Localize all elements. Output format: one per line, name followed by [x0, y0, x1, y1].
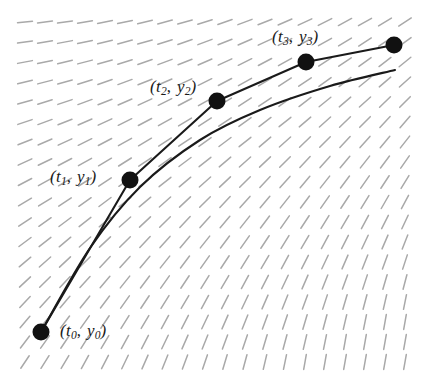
slope-field-tick [298, 19, 312, 25]
slope-field-tick [140, 256, 150, 267]
slope-field-tick [404, 355, 407, 370]
slope-field-tick [302, 255, 309, 268]
slope-field-tick [404, 315, 407, 330]
slope-field-tick [401, 195, 408, 208]
slope-field-tick [361, 196, 369, 209]
slope-field-tick [98, 80, 112, 85]
slope-field-tick [281, 236, 289, 249]
slope-field-tick [158, 59, 172, 64]
data-point-marker [298, 54, 315, 71]
slope-field-tick [138, 20, 153, 23]
slope-field-tick [40, 296, 50, 307]
slope-field-tick [158, 20, 173, 24]
slope-field-tick [258, 58, 271, 65]
slope-field-tick [38, 21, 53, 23]
slope-field-tick [78, 119, 92, 125]
slope-field-tick [220, 236, 229, 248]
slope-field-tick [401, 176, 409, 189]
slope-field-tick [202, 315, 208, 329]
slope-field-tick [162, 335, 168, 349]
slope-field-tick [160, 236, 170, 247]
slope-field-tick [279, 137, 290, 147]
slope-field-tick [58, 21, 73, 23]
slope-field-tick [121, 296, 130, 308]
slope-field-tick [219, 157, 230, 167]
slope-field-tick [379, 57, 391, 66]
slope-field-tick [301, 196, 310, 208]
slope-field-tick [382, 255, 387, 269]
slope-field-tick [138, 40, 152, 44]
slope-field-tick [20, 336, 29, 348]
slope-field-tick [259, 117, 271, 126]
slope-field-tick [381, 176, 389, 189]
slope-field-tick [18, 139, 32, 145]
slope-field-tick [263, 355, 266, 370]
slope-field-tick [20, 297, 30, 308]
slope-field-tick [361, 176, 370, 188]
slope-field-tick [261, 256, 269, 269]
slope-field-tick [160, 217, 171, 228]
slope-field-tick [260, 177, 270, 188]
slope-field-tick [218, 20, 232, 25]
slope-field-tick [18, 159, 32, 165]
slope-field-tick [141, 296, 149, 308]
slope-field-tick [138, 99, 152, 105]
slope-field-tick [343, 315, 346, 330]
slope-field-tick [280, 196, 289, 208]
slope-field-tick [363, 275, 368, 289]
slope-field-tick [158, 40, 172, 45]
slope-field-tick [360, 156, 369, 168]
data-point-marker [209, 93, 226, 110]
slope-field-tick [341, 176, 350, 188]
slope-field-tick [383, 295, 386, 310]
slope-field-tick [344, 355, 347, 370]
slope-field-tick [201, 256, 210, 268]
slope-field-tick [100, 296, 109, 308]
slope-field-tick [120, 276, 129, 288]
slope-field-tick [403, 275, 407, 290]
slope-field-tick [384, 335, 387, 350]
slope-field-tick [38, 60, 53, 63]
slope-field-tick [162, 355, 168, 369]
slope-field-tick [278, 58, 291, 65]
slope-field-tick [198, 79, 211, 86]
slope-field-tick [220, 197, 230, 208]
slope-field-tick [280, 176, 290, 187]
slope-field-tick [399, 57, 411, 66]
slope-field-tick [362, 235, 368, 249]
slope-field-tick [283, 355, 286, 370]
slope-field-tick [18, 41, 33, 43]
slope-field-tick [341, 196, 349, 209]
slope-field-tick [222, 335, 227, 349]
slope-field-tick [281, 216, 290, 228]
slope-field-tick [404, 295, 407, 310]
slope-field-tick [58, 80, 72, 84]
slope-field-tick [18, 120, 32, 125]
slope-field-tick [182, 355, 187, 369]
slope-field-group [18, 18, 412, 369]
slope-field-tick [139, 197, 150, 207]
slope-field-tick [220, 177, 231, 187]
slope-field-tick [243, 335, 248, 349]
slope-field-tick [260, 196, 270, 207]
slope-field-tick [58, 100, 72, 105]
slope-field-tick [180, 197, 191, 207]
slope-field-tick [139, 138, 152, 146]
slope-field-tick [280, 157, 291, 168]
slope-field-tick [98, 139, 111, 146]
euler-method-slope-field-figure: (t0, y0) (t1, y1) (t2, y2) (t3, y3) [0, 0, 434, 378]
slope-field-tick [283, 335, 287, 349]
slope-field-tick [361, 215, 368, 228]
slope-field-tick [238, 78, 251, 85]
slope-field-tick [79, 217, 91, 226]
slope-field-tick [58, 139, 72, 145]
slope-field-tick [302, 275, 308, 289]
slope-field-tick [282, 295, 288, 309]
slope-field-tick [399, 18, 412, 26]
slope-field-tick [382, 235, 388, 249]
slope-field-tick [78, 60, 93, 64]
slope-field-tick [381, 196, 389, 209]
slope-field-tick [100, 276, 110, 287]
slope-field-tick [80, 276, 90, 287]
slope-field-tick [58, 60, 73, 63]
